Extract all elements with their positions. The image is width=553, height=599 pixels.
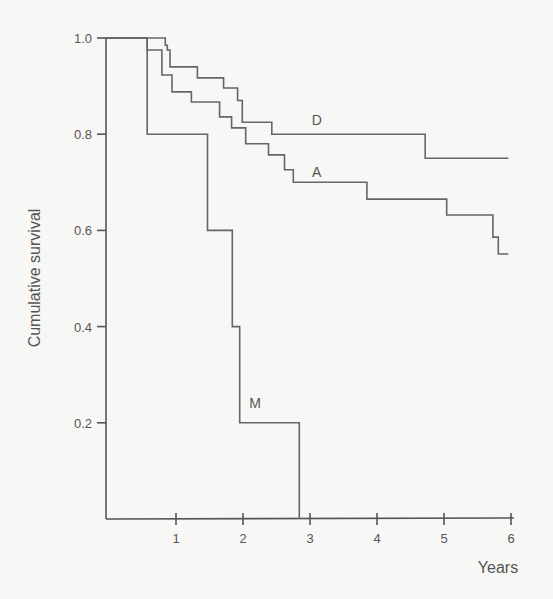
y-tick-label: 0.4 <box>74 320 92 335</box>
series-label-d: D <box>312 112 322 128</box>
y-tick-label: 1.0 <box>74 31 92 46</box>
y-tick-label: 0.6 <box>74 223 92 238</box>
x-tick-label: 2 <box>239 531 246 546</box>
x-axis-title: Years <box>478 559 518 576</box>
series-labels: DAM <box>249 112 322 412</box>
x-tick-label: 3 <box>306 531 313 546</box>
survival-curve-m <box>106 38 299 519</box>
x-tick-label: 6 <box>507 531 514 546</box>
x-tick-label: 1 <box>172 531 179 546</box>
y-tick-label: 0.8 <box>74 127 92 142</box>
survival-curves <box>106 38 508 519</box>
survival-curve-d <box>106 38 508 158</box>
survival-curve-a <box>106 38 508 254</box>
series-label-a: A <box>312 164 322 180</box>
x-tick-label: 4 <box>373 531 380 546</box>
survival-chart: 0.20.40.60.81.0123456 DAM Cumulative sur… <box>0 0 553 599</box>
series-label-m: M <box>249 395 261 411</box>
axes: 0.20.40.60.81.0123456 <box>74 31 515 546</box>
y-tick-label: 0.2 <box>74 416 92 431</box>
y-axis-title: Cumulative survival <box>26 209 43 348</box>
x-tick-label: 5 <box>440 531 447 546</box>
